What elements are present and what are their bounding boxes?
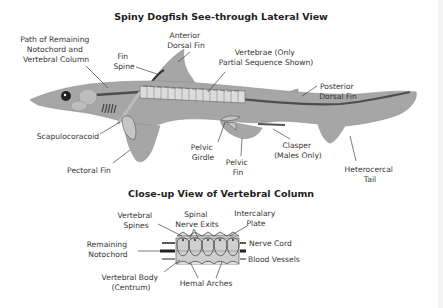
label-pelvic-girdle: Pelvic Girdle [191, 143, 215, 162]
label-vertebral-body: Vertebral Body (Centrum) [102, 273, 161, 292]
label-vertebrae: Vertebrae (Only Partial Sequence Shown) [219, 48, 313, 67]
vertebral-closeup [160, 232, 246, 264]
clasper-shape [258, 124, 285, 125]
label-scapulocoracoid: Scapulocoracoid [37, 132, 100, 141]
label-intercalary-plate: Intercalary Plate [234, 209, 277, 228]
label-pectoral-fin: Pectoral Fin [67, 166, 111, 175]
jaw [71, 101, 87, 111]
dogfish-diagram: Spiny Dogfish See-through Lateral View C… [0, 0, 443, 308]
label-blood-vessels: Blood Vessels [248, 255, 300, 264]
label-clasper: Clasper (Males Only) [274, 141, 322, 160]
label-posterior-dorsal-fin: Posterior Dorsal Fin [319, 82, 357, 101]
closeup-title: Close-up View of Vertebral Column [128, 188, 314, 199]
label-pelvic-fin: Pelvic Fin [226, 158, 250, 177]
eye-highlight [64, 94, 66, 96]
label-fin-spine: Fin Spine [113, 52, 135, 71]
anterior-dorsal-fin [150, 49, 196, 85]
label-hemal-arches: Hemal Arches [180, 279, 233, 288]
label-nerve-cord: Nerve Cord [249, 239, 292, 248]
label-notochord-path: Path of Remaining Notochord and Vertebra… [20, 35, 92, 64]
eye [61, 91, 71, 101]
label-remaining-notochord: Remaining Notochord [87, 240, 130, 259]
label-spinal-nerve-exits: Spinal Nerve Exits [175, 210, 218, 229]
label-heterocercal-tail: Heterocercal Tail [345, 165, 396, 184]
main-title: Spiny Dogfish See-through Lateral View [114, 11, 328, 22]
label-anterior-dorsal-fin: Anterior Dorsal Fin [167, 31, 205, 50]
label-vertebral-spines: Vertebral Spines [117, 211, 154, 230]
